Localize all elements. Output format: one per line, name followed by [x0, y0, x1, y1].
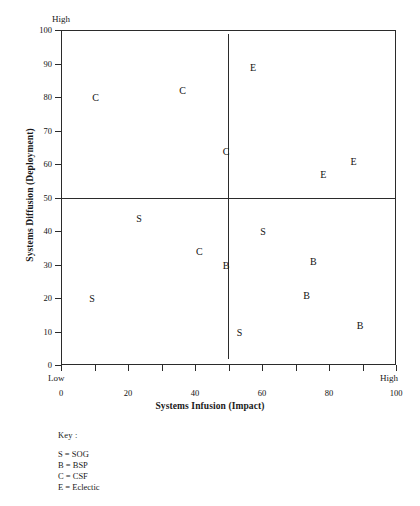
y-tick — [55, 131, 61, 132]
y-tick — [55, 97, 61, 98]
data-point-e: E — [250, 63, 256, 73]
data-point-e: E — [350, 157, 356, 167]
x-tick — [128, 365, 129, 371]
legend-entry: B = BSP — [58, 460, 100, 471]
plot-area: CCCCEEESSSSBBBB — [61, 30, 396, 365]
y-tick — [55, 30, 61, 31]
quadrant-divider-horizontal — [62, 198, 396, 199]
x-tick-label: 40 — [191, 389, 200, 398]
x-tick-label: 60 — [258, 389, 267, 398]
y-tick — [55, 332, 61, 333]
scatter-chart: High CCCCEEESSSSBBBB 0102030405060708090… — [0, 0, 420, 506]
legend-entries: S = SOGB = BSPC = CSFE = Eclectic — [58, 449, 100, 493]
data-point-s: S — [260, 227, 266, 237]
x-tick — [229, 365, 230, 371]
x-tick — [162, 365, 163, 371]
x-tick — [396, 365, 397, 371]
x-tick-label: 20 — [124, 389, 133, 398]
legend-entry: C = CSF — [58, 471, 100, 482]
x-tick — [363, 365, 364, 371]
x-tick — [95, 365, 96, 371]
x-tick-label: 80 — [325, 389, 334, 398]
y-axis-title: Systems Diffusion (Deployment) — [25, 65, 35, 325]
y-tick-label: 0 — [28, 361, 52, 370]
x-axis-low-label: Low — [48, 373, 65, 383]
y-tick — [55, 298, 61, 299]
data-point-b: B — [303, 291, 310, 301]
y-tick — [55, 64, 61, 65]
data-point-s: S — [89, 294, 95, 304]
legend: Key : S = SOGB = BSPC = CSFE = Eclectic — [58, 430, 100, 493]
y-axis-high-label: High — [52, 14, 70, 24]
x-tick — [296, 365, 297, 371]
legend-entry: S = SOG — [58, 449, 100, 460]
y-tick — [55, 198, 61, 199]
data-point-c: C — [196, 247, 203, 257]
data-point-c: C — [92, 93, 99, 103]
x-tick — [61, 365, 62, 371]
x-tick — [262, 365, 263, 371]
x-tick — [195, 365, 196, 371]
data-point-s: S — [237, 328, 243, 338]
data-point-s: S — [136, 214, 142, 224]
y-tick — [55, 231, 61, 232]
data-point-b: B — [310, 257, 317, 267]
data-point-b: B — [357, 321, 364, 331]
data-point-b: B — [223, 261, 230, 271]
x-tick-label: 0 — [59, 389, 63, 398]
y-tick-label: 10 — [28, 328, 52, 337]
data-point-c: C — [179, 86, 186, 96]
x-axis-title: Systems Infusion (Impact) — [0, 401, 420, 411]
data-point-e: E — [320, 170, 326, 180]
x-axis-high-label: High — [380, 373, 398, 383]
x-tick-label: 100 — [390, 389, 403, 398]
y-tick — [55, 265, 61, 266]
legend-entry: E = Eclectic — [58, 482, 100, 493]
legend-title: Key : — [58, 430, 100, 441]
data-point-c: C — [223, 147, 230, 157]
y-tick — [55, 164, 61, 165]
quadrant-divider-vertical — [228, 34, 229, 359]
x-tick — [329, 365, 330, 371]
y-tick-label: 100 — [28, 26, 52, 35]
